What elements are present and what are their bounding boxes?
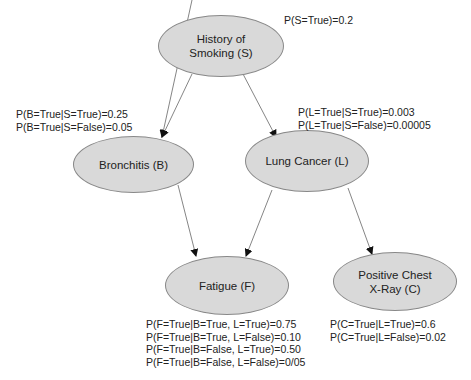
- edge-lungcancer-xray: [348, 188, 372, 254]
- cpt-fatigue: P(F=True|B=True, L=True)=0.75 P(F=True|B…: [146, 318, 305, 368]
- cpt-entry: P(F=True|B=True, L=False)=0.10: [146, 331, 305, 344]
- edge-smoking-bronchitis-line: [162, 74, 192, 137]
- node-history-of-smoking: History of Smoking (S): [158, 15, 284, 77]
- node-label: Fatigue (F): [199, 279, 255, 293]
- node-lung-cancer: Lung Cancer (L): [245, 130, 369, 192]
- cpt-entry: P(L=True|S=True)=0.003: [298, 106, 431, 119]
- cpt-entry: P(F=True|B=False, L=True)=0.50: [146, 343, 305, 356]
- node-positive-chest-xray: Positive Chest X-Ray (C): [333, 252, 457, 311]
- edge-bronchitis-fatigue: [178, 185, 196, 256]
- node-label: Lung Cancer (L): [265, 154, 348, 168]
- node-label: Bronchitis (B): [99, 158, 168, 172]
- node-label: Positive Chest: [358, 268, 432, 282]
- cpt-bronchitis: P(B=True|S=True)=0.25 P(B=True|S=False)=…: [16, 108, 132, 133]
- cpt-entry: P(B=True|S=False)=0.05: [16, 121, 132, 134]
- node-bronchitis: Bronchitis (B): [73, 136, 194, 193]
- cpt-entry: P(C=True|L=False)=0.02: [330, 331, 446, 344]
- node-label: Smoking (S): [189, 46, 252, 60]
- edge-lungcancer-fatigue: [246, 190, 272, 256]
- edge-smoking-lungcancer: [243, 74, 276, 137]
- cpt-entry: P(C=True|L=True)=0.6: [330, 318, 446, 331]
- cpt-entry: P(L=True|S=False)=0.00005: [298, 119, 431, 132]
- cpt-entry: P(B=True|S=True)=0.25: [16, 108, 132, 121]
- cpt-lung-cancer: P(L=True|S=True)=0.003 P(L=True|S=False)…: [298, 106, 431, 131]
- cpt-entry: P(S=True)=0.2: [284, 14, 353, 27]
- cpt-xray: P(C=True|L=True)=0.6 P(C=True|L=False)=0…: [330, 318, 446, 343]
- node-fatigue: Fatigue (F): [165, 256, 289, 315]
- cpt-entry: P(F=True|B=False, L=False)=0/05: [146, 356, 305, 369]
- cpt-entry: P(F=True|B=True, L=True)=0.75: [146, 318, 305, 331]
- node-label: History of: [189, 32, 252, 46]
- node-label: X-Ray (C): [358, 282, 432, 296]
- cpt-smoking: P(S=True)=0.2: [284, 14, 353, 27]
